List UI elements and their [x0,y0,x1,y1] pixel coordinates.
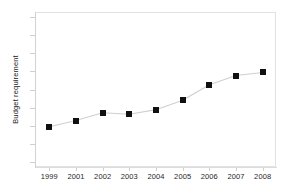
x-axis-tick [263,168,264,171]
data-point-marker [100,110,106,116]
y-axis-tick [30,108,35,109]
x-axis-tick [209,168,210,171]
data-point-marker [233,73,239,79]
plot-area [36,12,276,167]
y-axis-tick [30,35,35,36]
data-point-marker [206,82,212,88]
y-axis-tick [30,126,35,127]
y-axis-tick [30,17,35,18]
x-axis-tick [76,168,77,171]
data-point-marker [180,97,186,103]
x-axis-tick [183,168,184,171]
data-point-marker [73,118,79,124]
data-point-marker [260,69,266,75]
x-axis-tick [103,168,104,171]
data-point-marker [153,107,159,113]
y-axis-tick [30,53,35,54]
data-point-marker [46,124,52,130]
y-axis-tick [30,144,35,145]
y-axis-tick [30,90,35,91]
x-axis-tick [156,168,157,171]
y-axis-tick [30,71,35,72]
x-axis-tick [49,168,50,171]
x-axis-tick-label: 2008 [243,172,283,181]
x-axis-tick [129,168,130,171]
data-point-marker [126,111,132,117]
y-axis-tick [30,162,35,163]
x-axis-tick [236,168,237,171]
chart-figure: Budget requirement 199920012002200320042… [0,0,291,195]
y-axis-label: Budget requirement [9,12,23,167]
